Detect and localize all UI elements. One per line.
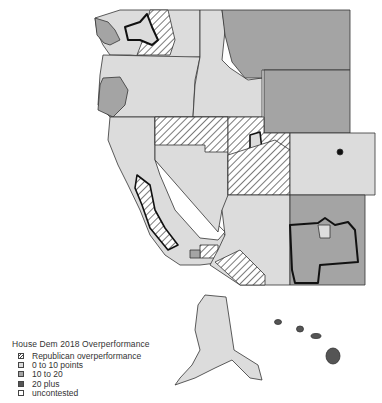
dark-swatch-icon — [18, 381, 24, 387]
state-new-mexico — [290, 195, 365, 285]
legend-item-uncontested: uncontested — [12, 389, 150, 398]
hatched-swatch-icon — [18, 353, 24, 359]
state-colorado — [290, 133, 375, 195]
empty-swatch-icon — [18, 390, 24, 396]
map-legend: House Dem 2018 Overperformance Republica… — [12, 339, 150, 398]
legend-item-10-20: 10 to 20 — [12, 370, 150, 379]
mid-swatch-icon — [18, 371, 24, 377]
legend-item-20-plus: 20 plus — [12, 379, 150, 388]
state-alaska — [175, 295, 262, 385]
legend-title: House Dem 2018 Overperformance — [12, 339, 150, 349]
state-washington — [95, 10, 200, 58]
light-swatch-icon — [18, 362, 24, 368]
state-oregon — [98, 55, 200, 117]
legend-item-republican: Republican overperformance — [12, 351, 150, 360]
legend-item-0-10: 0 to 10 points — [12, 360, 150, 369]
state-wyoming — [264, 70, 350, 133]
state-hawaii — [275, 320, 341, 365]
legend-label: uncontested — [32, 388, 78, 398]
state-montana — [222, 10, 350, 78]
